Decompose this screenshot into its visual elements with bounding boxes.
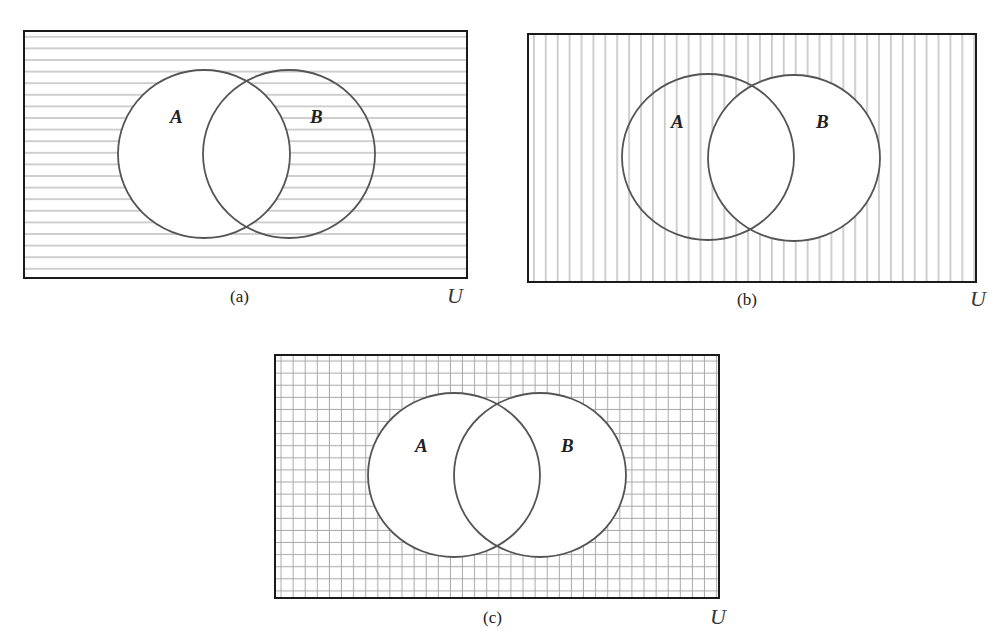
set-label-a: A — [414, 435, 428, 456]
caption-b: (b) — [737, 290, 757, 310]
set-label-b: B — [309, 106, 323, 127]
panel-a: A B — [24, 31, 467, 278]
universe-label-a: U — [447, 283, 463, 309]
universe-label-b: U — [970, 286, 986, 312]
panel-c: A B — [275, 355, 719, 598]
set-label-a: A — [169, 106, 183, 127]
set-label-b: B — [560, 435, 574, 456]
venn-figure: A B A B A B (a) U (b) U (c) U — [0, 0, 1005, 639]
universe-label-c: U — [710, 604, 726, 630]
caption-c: (c) — [483, 608, 502, 628]
set-label-b: B — [815, 111, 829, 132]
caption-a: (a) — [230, 287, 249, 307]
panel-b: A B — [528, 34, 976, 282]
set-label-a: A — [670, 111, 684, 132]
